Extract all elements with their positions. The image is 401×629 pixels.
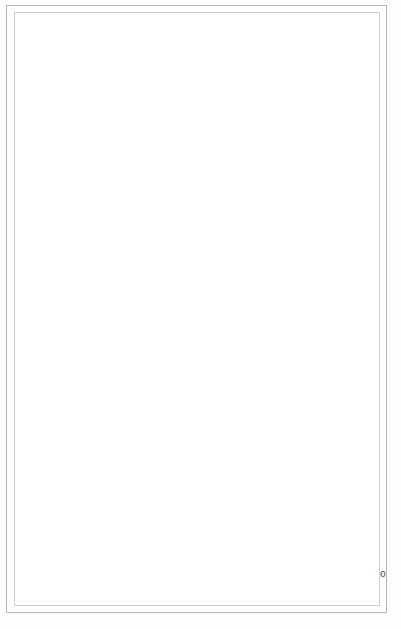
figure-inner-frame: [14, 12, 380, 606]
chart-figure: 6360383730228475849673727450243529405448…: [0, 0, 401, 629]
